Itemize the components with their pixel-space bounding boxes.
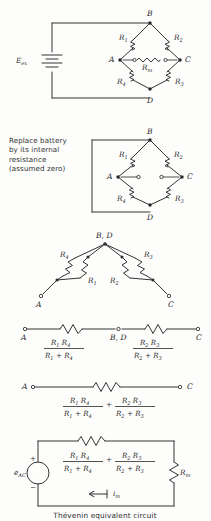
svg-text:R1 + R4: R1 + R4 (63, 464, 92, 474)
label-r3: R3 (174, 77, 184, 87)
node-label-c: C (187, 172, 193, 181)
label-r3: R3 (143, 250, 153, 260)
resistor-r4 (63, 258, 75, 276)
node-label-b: B (146, 9, 153, 18)
label-rm: Rm (141, 63, 153, 73)
node-label-c: C (187, 382, 193, 391)
terminal-c (167, 294, 170, 297)
svg-text:R2 R3: R2 R3 (121, 396, 141, 406)
panel-series-sum: A C R1 R4 R1 + R4 + R2 R3 R2 + R3 (0, 372, 211, 430)
node-label-a: A (20, 333, 27, 342)
label-r1: R1 (118, 150, 128, 160)
terminal-c (196, 327, 199, 330)
terminal-a (31, 385, 34, 388)
svg-text:R1 R4: R1 R4 (50, 338, 70, 348)
open-terminal-right (160, 175, 163, 178)
label-r2: R2 (173, 150, 183, 160)
node-label-c: C (168, 300, 174, 309)
label-im: im (113, 489, 120, 499)
terminal-bd (117, 327, 120, 330)
plus-operator: + (106, 455, 112, 464)
resistor-r2 (122, 257, 130, 278)
svg-text:R2 + R3: R2 + R3 (115, 464, 144, 474)
resistor-r3 (166, 188, 171, 198)
svg-text:R2 R3: R2 R3 (121, 451, 141, 461)
svg-text:R1 + R4: R1 + R4 (44, 351, 73, 361)
voltage-source-symbol (27, 462, 49, 484)
label-r4: R4 (59, 250, 69, 260)
current-arrow-im (89, 490, 107, 498)
label-r1: R1 (118, 33, 128, 43)
label-r2: R2 (173, 33, 183, 43)
resistor-r3 (135, 258, 147, 276)
node-label-c: C (196, 333, 202, 342)
node-label-a: A (106, 172, 113, 181)
source-label-eex: Eex (15, 56, 27, 66)
resistor-thevenin-equivalent (78, 437, 105, 446)
fraction-thevenin-resistance: R1 R4 R1 + R4 + R2 R3 R2 + R3 (63, 451, 155, 474)
node-label-bd: B, D (109, 333, 127, 342)
svg-text:R2 + R3: R2 + R3 (133, 351, 162, 361)
svg-text:R1 R4: R1 R4 (69, 396, 89, 406)
svg-text:R2 + R3: R2 + R3 (115, 409, 144, 419)
node-label-d: D (146, 213, 153, 222)
node-label-d: D (146, 96, 153, 105)
resistor-r1 (80, 257, 88, 278)
node-label-bd: B, D (95, 231, 113, 240)
figure-page: Eex Rm (0, 0, 211, 521)
label-r3: R3 (174, 194, 184, 204)
label-r2: R2 (109, 276, 119, 286)
fraction-right-parallel: R2 R3 R2 + R3 (133, 338, 173, 361)
terminal-a (39, 294, 42, 297)
polarity-plus: + (30, 454, 36, 463)
resistor-left-equivalent (60, 325, 82, 334)
svg-text:R2 R3: R2 R3 (139, 338, 159, 348)
battery-symbol (42, 55, 62, 67)
resistor-right-equivalent (145, 325, 167, 334)
node-label-b: B (146, 127, 153, 136)
resistor-r4 (130, 71, 135, 81)
resistor-r3 (166, 71, 171, 81)
resistor-r4 (130, 188, 135, 198)
label-rm: Rm (179, 468, 191, 478)
svg-text:R1 + R4: R1 + R4 (63, 409, 92, 419)
figure-caption: Thévenin equivalent circuit (52, 511, 156, 520)
node-label-a: A (21, 382, 28, 391)
polarity-minus: − (30, 483, 36, 492)
node-label-a: A (108, 55, 115, 64)
fraction-sum-expression: R1 R4 R1 + R4 + R2 R3 R2 + R3 (63, 396, 155, 419)
panel-bridge-energized: Eex Rm (0, 0, 211, 122)
resistor-rm (170, 462, 179, 483)
terminal-a (23, 327, 26, 330)
resistor-total-equivalent (93, 383, 120, 392)
plus-operator: + (106, 400, 112, 409)
label-r4: R4 (116, 194, 126, 204)
open-terminal-left (137, 175, 140, 178)
panel-bridge-shorted: B A C D R1 R2 R4 R3 (0, 126, 211, 226)
terminal-c (178, 385, 181, 388)
panel-bridge-folded: B, D A R4 R1 (0, 228, 211, 312)
label-eac: eAC (14, 468, 26, 478)
svg-text:R1 R4: R1 R4 (69, 451, 89, 461)
panel-thevenin: eAC + − Rm R1 R4 R1 + R4 + R2 R3 (0, 428, 211, 521)
node-label-c: C (185, 55, 191, 64)
node-label-a: A (35, 300, 42, 309)
label-r4: R4 (116, 77, 126, 87)
label-r1: R1 (87, 276, 97, 286)
fraction-left-parallel: R1 R4 R1 + R4 (44, 338, 84, 361)
panel-series-pair: A B, D C R1 R4 R1 + R4 R2 R3 R (0, 312, 211, 370)
meter-resistor-rm (137, 58, 160, 61)
